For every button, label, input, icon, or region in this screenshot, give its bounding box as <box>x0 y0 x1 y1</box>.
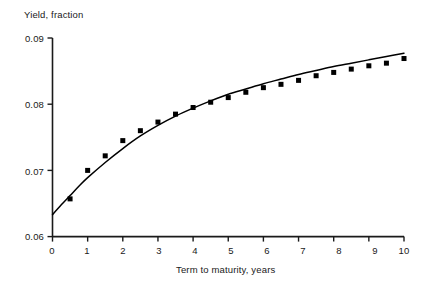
data-point <box>68 196 73 201</box>
data-point-markers <box>68 56 407 201</box>
data-point <box>331 70 336 75</box>
data-point <box>384 61 389 66</box>
data-point <box>261 85 266 90</box>
plot-area <box>0 0 426 287</box>
data-point <box>103 153 108 158</box>
y-axis <box>48 38 53 237</box>
data-point <box>191 105 196 110</box>
data-point <box>366 63 371 68</box>
data-point <box>138 128 143 133</box>
data-point <box>208 100 213 105</box>
data-point <box>173 112 178 117</box>
data-point <box>296 78 301 83</box>
yield-curve-chart: Yield, fraction Term to maturity, years … <box>0 0 426 287</box>
data-point <box>314 73 319 78</box>
data-point <box>120 138 125 143</box>
data-point <box>243 90 248 95</box>
data-point <box>226 95 231 100</box>
data-point <box>85 168 90 173</box>
data-point <box>278 82 283 87</box>
x-axis <box>53 237 405 242</box>
data-point <box>155 120 160 125</box>
data-point <box>349 67 354 72</box>
data-point <box>402 56 407 61</box>
fitted-yield-curve <box>53 53 405 215</box>
